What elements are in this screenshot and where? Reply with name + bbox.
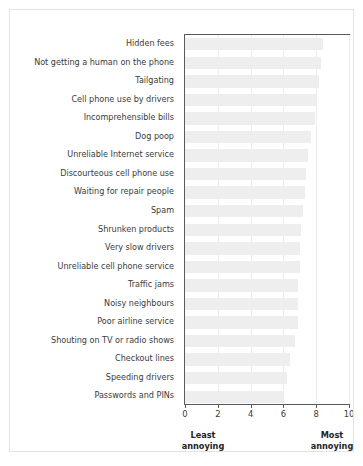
category-axis-labels: Hidden feesNot getting a human on the ph…	[10, 34, 179, 405]
axis-tick-mark	[316, 405, 317, 408]
axis-tick-label: 2	[205, 409, 231, 419]
bar	[185, 38, 323, 50]
axis-tick-label: 0	[172, 409, 198, 419]
bar	[185, 298, 298, 310]
axis-tick-mark	[185, 405, 186, 408]
bar	[185, 112, 315, 124]
category-label: Not getting a human on the phone	[34, 53, 174, 72]
axis-tick-mark	[218, 405, 219, 408]
bar	[185, 186, 305, 198]
category-label: Passwords and PINs	[94, 386, 174, 405]
bar-row	[185, 387, 349, 406]
category-label: Traffic jams	[128, 275, 174, 294]
bar-row	[185, 350, 349, 369]
bar-row	[185, 165, 349, 184]
bar	[185, 149, 308, 161]
category-label: Unreliable cell phone service	[58, 257, 174, 276]
plot-area	[184, 34, 350, 405]
bar-row	[185, 295, 349, 314]
category-label: Very slow drivers	[105, 238, 174, 257]
bar-row	[185, 128, 349, 147]
bar-row	[185, 109, 349, 128]
bar	[185, 391, 283, 403]
category-label: Cell phone use by drivers	[71, 90, 174, 109]
gridline	[349, 35, 350, 404]
category-label: Poor airline service	[97, 312, 174, 331]
bar-row	[185, 239, 349, 258]
category-label: Speeding drivers	[106, 368, 174, 387]
bar	[185, 372, 287, 384]
category-label: Discourteous cell phone use	[60, 164, 174, 183]
axis-tick-mark	[251, 405, 252, 408]
bar-row	[185, 276, 349, 295]
bar	[185, 353, 290, 365]
bar	[185, 94, 316, 106]
bar-row	[185, 369, 349, 388]
bar	[185, 316, 298, 328]
value-axis: 0246810	[184, 405, 350, 421]
category-label: Spam	[151, 201, 174, 220]
bar-row	[185, 221, 349, 240]
axis-tick-label: 6	[270, 409, 296, 419]
bar-row	[185, 146, 349, 165]
bar	[185, 168, 306, 180]
category-label: Dog poop	[135, 127, 174, 146]
axis-caption-most-annoying: Most annoying	[302, 430, 354, 451]
bar-row	[185, 91, 349, 110]
bar-row	[185, 332, 349, 351]
category-label: Unreliable Internet service	[67, 145, 174, 164]
category-label: Shouting on TV or radio shows	[51, 331, 174, 350]
axis-tick-mark	[283, 405, 284, 408]
category-label: Noisy neighbours	[104, 294, 174, 313]
bar	[185, 205, 303, 217]
axis-caption-least-annoying: Least annoying	[173, 430, 233, 451]
bar	[185, 261, 300, 273]
chart-figure: Hidden feesNot getting a human on the ph…	[9, 9, 354, 452]
bar	[185, 224, 301, 236]
bar-row	[185, 258, 349, 277]
axis-tick-mark	[349, 405, 350, 408]
bar	[185, 335, 295, 347]
bar	[185, 279, 298, 291]
category-label: Shrunken products	[98, 220, 174, 239]
category-label: Checkout lines	[115, 349, 174, 368]
category-label: Tailgating	[135, 71, 174, 90]
bar	[185, 57, 321, 69]
bar-row	[185, 313, 349, 332]
axis-tick-label: 8	[303, 409, 329, 419]
bar	[185, 131, 311, 143]
bar	[185, 75, 319, 87]
category-label: Hidden fees	[126, 34, 174, 53]
bar-row	[185, 183, 349, 202]
axis-tick-label: 4	[238, 409, 264, 419]
bar	[185, 242, 300, 254]
axis-tick-label: 10	[336, 409, 354, 419]
bar-row	[185, 72, 349, 91]
bar-series	[185, 35, 349, 404]
bar-row	[185, 54, 349, 73]
bar-row	[185, 35, 349, 54]
bar-row	[185, 202, 349, 221]
category-label: Incomprehensible bills	[84, 108, 174, 127]
category-label: Waiting for repair people	[74, 182, 174, 201]
